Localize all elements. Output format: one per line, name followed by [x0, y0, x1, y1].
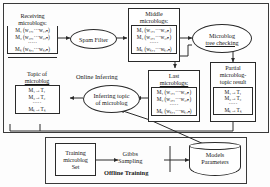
node-partial-microblog-topic-result[interactable]: Partial microblog- topic result M₁→T₁ M₂…: [210, 62, 256, 122]
node-inferring-topic[interactable]: Inferring topic of microblog: [83, 85, 140, 113]
last-list: M₁ (w₁,₁···w₁,ₙ) M₂ (w₂,₁···w₂,ₙ) ····· …: [151, 87, 197, 115]
spam-filter-label: Spam Filter: [79, 36, 108, 43]
tree-checking-label-line2: tree checking: [205, 39, 238, 46]
topic-caption: Topic of microblog: [25, 70, 50, 84]
inferring-label-line1: Inferring topic: [94, 92, 130, 99]
last-caption: Last microblogs:: [160, 71, 188, 86]
models-parameters-label: Models Parameters: [189, 151, 241, 166]
node-middle-microblogs[interactable]: Middle microblogs: M₁ (w₁,₁···w₁,ₙ) M₂ (…: [128, 8, 180, 62]
inferring-label-line2: of microblog: [95, 99, 127, 106]
receiving-list: M₁ (w₁,₁···w₁,ₙ) M₂ (w₂,₁···w₂,ₙ) ····· …: [7, 26, 58, 53]
list-item: Mₖ→Tₖ: [224, 107, 241, 113]
list-item: Mₖ (wₖ,₁···wₖ,ₙ): [137, 46, 172, 52]
node-microblog-tree-checking[interactable]: Microblog tree checking: [192, 24, 252, 53]
offline-training-label: Offline Training: [104, 169, 148, 176]
partial-result-list: M₁→T₁ M₂→T₂ ····· Mₖ→Tₖ: [213, 87, 253, 115]
receiving-caption: Receiving microblogs:: [18, 12, 46, 26]
topic-list: M₁→T₁ M₂→T₂ ····· Mₖ→Tₖ: [15, 85, 60, 113]
tree-checking-label-line1: Microblog: [209, 32, 235, 39]
node-gibbs-sampling: Gibbs Sampling: [118, 150, 143, 164]
middle-list: M₁ (w₁,₁···w₁,ₙ) M₂ (w₂,₁···w₂,ₙ) ····· …: [131, 25, 177, 53]
node-last-microblogs[interactable]: Last microblogs: M₁ (w₁,₁···w₁,ₙ) M₂ (w₂…: [148, 70, 200, 122]
node-spam-filter[interactable]: Spam Filter: [70, 29, 117, 49]
middle-caption: Middle microblogs:: [140, 9, 168, 24]
cylinder-top: [189, 142, 241, 150]
node-models-parameters[interactable]: Models Parameters: [189, 142, 241, 176]
list-item: Mₖ (wₖ,₁···wₖ,ₙ): [15, 46, 50, 52]
gibbs-line2: Sampling: [118, 157, 143, 164]
list-item: Mₖ→Tₖ: [28, 106, 45, 112]
list-item: Mₖ (wₖ,₁···wₖ,ₙ): [157, 108, 192, 114]
diagram-canvas: Receiving microblogs: M₁ (w₁,₁···w₁,ₙ) M…: [0, 0, 270, 187]
node-receiving-microblogs[interactable]: Receiving microblogs: M₁ (w₁,₁···w₁,ₙ) M…: [8, 12, 57, 58]
node-topic-of-microblog[interactable]: Topic of microblog M₁→T₁ M₂→T₂ ····· Mₖ→…: [12, 70, 62, 124]
node-training-microblog-set[interactable]: Training microblog Set: [55, 143, 96, 176]
gibbs-line1: Gibbs: [123, 150, 138, 157]
online-inferring-label: Online Inferring: [76, 73, 118, 80]
training-set-label: Training microblog Set: [63, 149, 88, 171]
partial-result-caption: Partial microblog- topic result: [220, 63, 247, 86]
